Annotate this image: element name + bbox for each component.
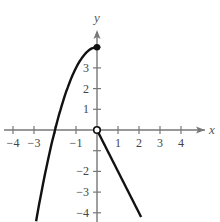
x-tick-label: 1: [115, 136, 121, 150]
y-axis-label: y: [92, 10, 100, 25]
x-tick-label: −1: [70, 136, 83, 150]
y-tick-label: 2: [83, 82, 89, 96]
open-endpoint-circle: [94, 127, 101, 134]
y-tick-label: 1: [83, 102, 89, 116]
x-tick-label: 2: [136, 136, 142, 150]
x-tick-label: −4: [7, 136, 20, 150]
x-axis-label: x: [208, 122, 215, 137]
x-tick-label: −3: [28, 136, 41, 150]
piecewise-function-graph: −4−3−11234321−2−3−4 x y: [0, 0, 220, 222]
x-tick-label: 3: [157, 136, 163, 150]
x-tick-label: 4: [178, 136, 184, 150]
y-tick-label: −2: [76, 164, 89, 178]
axes: −4−3−11234321−2−3−4: [4, 30, 205, 222]
y-tick-label: 3: [83, 61, 89, 75]
y-tick-label: −3: [76, 185, 89, 199]
y-tick-label: −4: [76, 206, 89, 220]
closed-endpoint-dot: [94, 44, 101, 51]
